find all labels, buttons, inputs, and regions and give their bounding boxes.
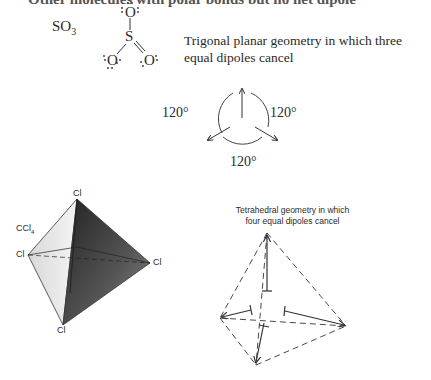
oxygen-top-atom: O	[125, 4, 136, 21]
cl-top-label: Cl	[73, 188, 82, 198]
tetrahedron-dipoles-graphic	[218, 228, 358, 368]
so3-formula: SO3	[52, 18, 76, 37]
cut-off-heading: Other molecules with polar bonds but no …	[28, 0, 356, 8]
cl-bottom-label: Cl	[57, 325, 66, 335]
tetrahedral-dipole-diagram	[218, 228, 358, 368]
trigonal-arrows-graphic	[200, 75, 340, 185]
angle-label-left: 120°	[162, 105, 189, 121]
trigonal-dipole-diagram: 120° 120° 120°	[200, 75, 340, 185]
cl-left-label: Cl	[16, 249, 25, 259]
oxygen-left-atom: O	[107, 52, 118, 69]
oxygen-right-atom: O	[144, 52, 155, 69]
tetrahedral-caption: Tetrahedral geometry in which four equal…	[200, 205, 385, 227]
angle-label-bottom: 120°	[230, 154, 257, 170]
trigonal-caption: Trigonal planar geometry in which three …	[184, 32, 431, 66]
sulfur-center-atom: S	[125, 28, 133, 45]
ccl4-shaded-tetrahedron: Cl Cl Cl Cl	[0, 195, 180, 335]
angle-label-right: 120°	[270, 105, 297, 121]
so3-lewis-structure: O S O O	[95, 0, 175, 70]
cl-right-label: Cl	[153, 257, 162, 267]
